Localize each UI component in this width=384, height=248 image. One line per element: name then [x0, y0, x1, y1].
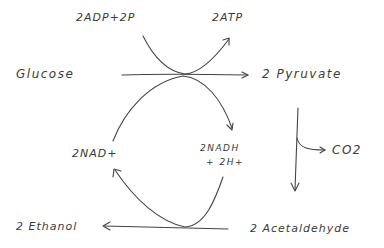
label-atp: 2ATP — [212, 12, 243, 23]
arrow-adp-to-atp — [143, 36, 229, 74]
fermentation-diagram: 2ADP+2P 2ATP Glucose 2 Pyruvate 2NAD+ 2N… — [0, 0, 384, 248]
label-ethanol: 2 Ethanol — [16, 221, 77, 232]
label-nad: 2NAD+ — [72, 148, 117, 159]
label-acetaldehyde: 2 Acetaldehyde — [250, 223, 350, 234]
arrow-acetaldehyde-to-ethanol — [104, 226, 228, 229]
arrow-nadh-to-nad — [115, 170, 223, 227]
arrowhead-atp-icon — [223, 38, 229, 45]
label-co2: CO2 — [332, 144, 362, 156]
label-adp: 2ADP+2P — [76, 12, 135, 23]
arrow-nad-to-nadh — [113, 76, 232, 141]
label-glucose: Glucose — [16, 68, 74, 80]
label-nadh-line1: 2NADH — [200, 144, 240, 153]
arrow-co2-release — [297, 138, 325, 150]
diagram-strokes — [0, 0, 384, 248]
label-nadh-line2: + 2H+ — [206, 158, 244, 167]
label-pyruvate: 2 Pyruvate — [262, 68, 342, 80]
arrow-pyruvate-to-acetaldehyde — [295, 108, 298, 190]
